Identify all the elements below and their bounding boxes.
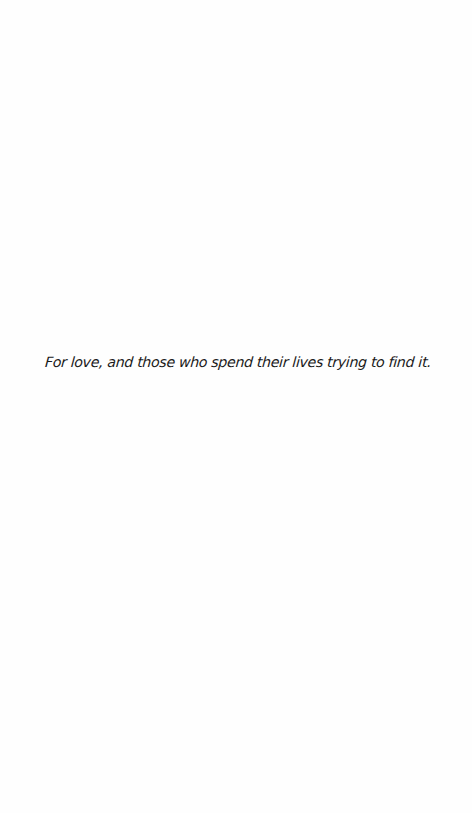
dedication-text: For love, and those who spend their live…	[44, 350, 446, 374]
book-page: For love, and those who spend their live…	[0, 0, 472, 813]
